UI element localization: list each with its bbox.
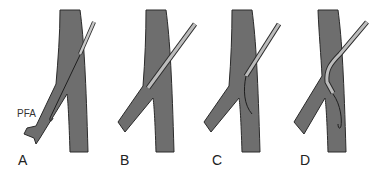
panel-c-drawing — [204, 10, 279, 152]
panel-label-a: A — [18, 152, 27, 168]
panel-b-drawing — [118, 10, 195, 152]
pfa-label: PFA — [17, 108, 36, 119]
panel-a-drawing — [24, 10, 94, 152]
panel-label-b: B — [120, 152, 129, 168]
vessel-diagram — [0, 0, 388, 174]
panel-d-drawing — [294, 10, 367, 152]
panel-label-c: C — [212, 152, 222, 168]
panel-label-d: D — [300, 152, 310, 168]
